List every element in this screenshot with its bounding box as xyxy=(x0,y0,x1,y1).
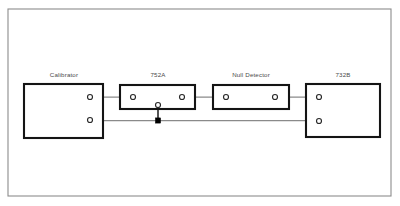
block-label-null-detector: Null Detector xyxy=(232,71,270,78)
terminal-732b-hi xyxy=(317,95,322,100)
diagram-canvas: Calibrator 752A Null Detector 732B xyxy=(0,0,400,206)
common-node-junction xyxy=(155,118,160,123)
terminal-calibrator-lo xyxy=(88,118,93,123)
block-calibrator xyxy=(24,84,103,138)
terminal-752a-out xyxy=(180,95,185,100)
terminal-calibrator-hi xyxy=(88,95,93,100)
block-label-732b: 732B xyxy=(335,71,350,78)
terminal-732b-lo xyxy=(317,119,322,124)
block-label-752a: 752A xyxy=(150,71,166,78)
block-732b xyxy=(306,84,380,137)
terminal-null-detector-out xyxy=(273,95,278,100)
terminal-752a-in xyxy=(131,95,136,100)
junction-group xyxy=(155,118,160,123)
connection-diagram: Calibrator 752A Null Detector 732B xyxy=(0,0,400,206)
block-label-calibrator: Calibrator xyxy=(50,71,78,78)
terminal-752a-common xyxy=(156,103,161,108)
terminal-null-detector-in xyxy=(224,95,229,100)
